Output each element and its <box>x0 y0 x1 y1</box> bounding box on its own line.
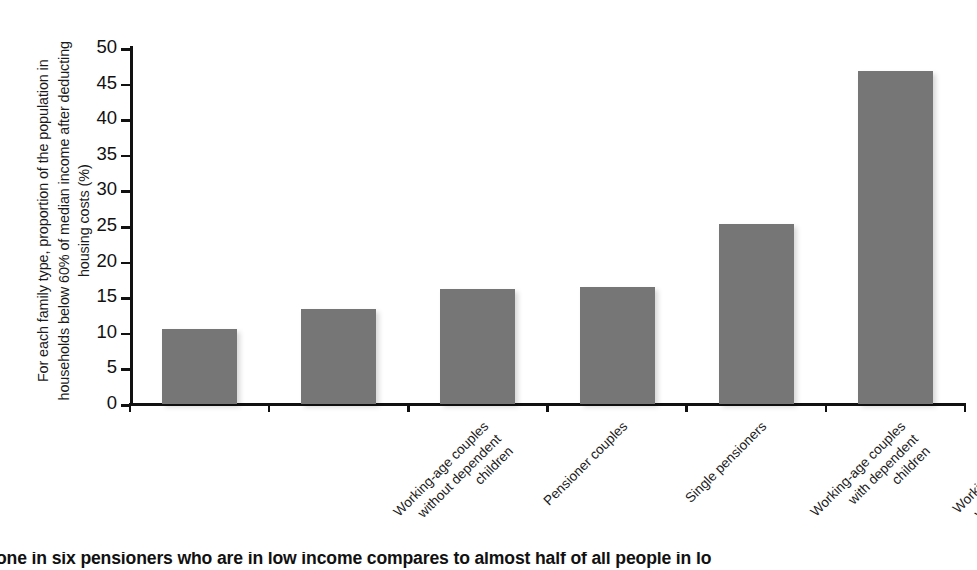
y-axis-tick-mark <box>121 262 130 265</box>
bar <box>301 309 376 404</box>
x-axis-category-label: Working-age singles without dependent ch… <box>852 418 977 570</box>
y-axis-tick-mark <box>121 333 130 336</box>
x-axis-tick-mark <box>407 403 410 412</box>
x-axis-tick-mark <box>685 403 688 412</box>
bar <box>719 224 794 404</box>
x-axis-category-label: Working-age couples without dependent ch… <box>296 418 517 570</box>
y-axis-tick-mark <box>121 119 130 122</box>
y-axis-tick-label: 50 <box>77 37 117 57</box>
x-axis-category-label: Single pensioners <box>574 418 770 570</box>
y-axis-tick-label: 45 <box>77 73 117 93</box>
y-axis-tick-label: 25 <box>77 215 117 235</box>
plot-area <box>130 48 965 404</box>
y-axis-tick-label: 10 <box>77 322 117 342</box>
y-axis-tick-label: 15 <box>77 286 117 306</box>
x-axis-tick-mark <box>825 403 828 412</box>
y-axis-tick-mark <box>121 48 130 51</box>
x-axis-tick-mark <box>129 403 132 412</box>
x-axis-tick-mark <box>268 403 271 412</box>
x-axis-tick-mark <box>546 403 549 412</box>
y-axis-tick-label: 5 <box>77 357 117 377</box>
figure-caption-text: one in six pensioners who are in low inc… <box>0 552 977 569</box>
bar-chart-figure: For each family type, proportion of the … <box>0 0 977 570</box>
figure-caption-clipped: one in six pensioners who are in low inc… <box>0 552 977 570</box>
y-axis-tick-label: 35 <box>77 144 117 164</box>
x-axis-category-label: Pensioner couples <box>435 418 631 570</box>
y-axis-tick-label: 20 <box>77 251 117 271</box>
x-axis-category-label: Working-age couples with dependent child… <box>713 418 934 570</box>
y-axis-tick-mark <box>121 84 130 87</box>
bar <box>440 289 515 404</box>
y-axis-tick-mark <box>121 297 130 300</box>
bar <box>162 329 237 404</box>
y-axis-tick-mark <box>121 155 130 158</box>
bar <box>858 71 933 404</box>
y-axis-tick-label: 40 <box>77 108 117 128</box>
y-axis-tick-mark <box>121 190 130 193</box>
x-axis-tick-mark <box>964 403 967 412</box>
y-axis-tick-mark <box>121 226 130 229</box>
y-axis-tick-mark <box>121 368 130 371</box>
bar <box>580 287 655 404</box>
y-axis-tick-label: 30 <box>77 179 117 199</box>
y-axis-tick-label: 0 <box>77 393 117 413</box>
